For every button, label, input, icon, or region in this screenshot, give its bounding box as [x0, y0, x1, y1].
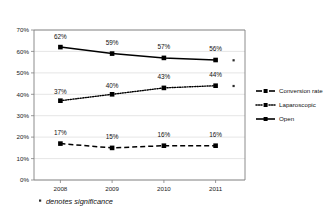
y-tick-label: 0% [20, 176, 29, 183]
series-conversion-rate-marker [110, 146, 115, 151]
series-laparoscopic-marker [162, 86, 167, 91]
legend-swatch-marker [264, 117, 268, 121]
y-tick-label: 10% [17, 155, 30, 162]
line-chart: 0% 10% 20% 30% 40% 50% 60% 70% 2008 2009… [0, 0, 323, 211]
series-laparoscopic-marker [110, 92, 115, 97]
legend-label-open: Open [279, 115, 295, 122]
series-open-marker [162, 56, 167, 61]
series-conversion-rate-value-label: 17% [54, 129, 67, 136]
y-tick-label: 60% [17, 48, 30, 55]
y-tick-label: 40% [17, 91, 30, 98]
series-laparoscopic-value-label: 43% [158, 73, 171, 80]
series-conversion-rate-marker [162, 143, 167, 148]
significance-dot-open [233, 59, 235, 61]
y-tick-label: 50% [17, 69, 30, 76]
series-open-value-label: 56% [209, 45, 222, 52]
series-open-marker [58, 45, 63, 50]
series-open-marker [213, 58, 218, 63]
series-conversion-rate-marker [213, 143, 218, 148]
series-laparoscopic-value-label: 40% [106, 82, 119, 89]
y-tick-label: 70% [17, 26, 30, 33]
footnote-text: denotes significance [46, 197, 113, 206]
y-tick-label: 20% [17, 133, 30, 140]
x-tick-label: 2010 [157, 185, 171, 192]
series-laparoscopic-value-label: 37% [54, 88, 67, 95]
significance-dot-laparoscopic [233, 85, 235, 87]
x-tick-label: 2008 [54, 185, 68, 192]
series-laparoscopic-marker [58, 98, 63, 103]
series-open-marker [110, 51, 115, 56]
series-open-value-label: 59% [106, 39, 119, 46]
series-open-value-label: 57% [158, 43, 171, 50]
footnote: denotes significance [39, 197, 113, 206]
legend-label-laparoscopic: Laparoscopic [279, 101, 316, 108]
chart-canvas: 0% 10% 20% 30% 40% 50% 60% 70% 2008 2009… [0, 0, 323, 211]
legend-swatch-marker [264, 103, 268, 107]
x-tick-label: 2009 [105, 185, 119, 192]
y-tick-label: 30% [17, 112, 30, 119]
series-conversion-rate-value-label: 16% [209, 131, 222, 138]
series-laparoscopic-marker [213, 83, 218, 88]
series-conversion-rate-marker [58, 141, 63, 146]
series-open-value-label: 62% [54, 33, 67, 40]
legend-label-conversion-rate: Conversion rate [279, 87, 323, 94]
significance-dot-icon [39, 200, 41, 202]
series-conversion-rate-value-label: 16% [158, 131, 171, 138]
legend-swatch-marker [264, 89, 268, 93]
x-tick-label: 2011 [209, 185, 223, 192]
series-laparoscopic-value-label: 44% [209, 71, 222, 78]
series-conversion-rate-value-label: 15% [106, 133, 119, 140]
